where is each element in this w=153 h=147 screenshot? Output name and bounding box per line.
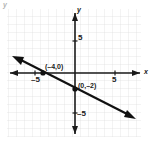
- point-marker-x-intercept: [40, 70, 45, 75]
- coordinate-plane-figure: –5 5 5 –5 x y y (–4,0) (0,–2): [0, 0, 153, 147]
- graph-canvas: [0, 0, 153, 147]
- y-axis-name-label: y: [77, 6, 81, 13]
- corner-y-name-label: y: [3, 1, 7, 8]
- x-axis-tick-label-pos5: 5: [112, 76, 116, 84]
- point-marker-y-intercept: [72, 86, 77, 91]
- y-axis-tick-label-neg5: –5: [77, 110, 86, 118]
- x-axis-tick-label-neg5: –5: [31, 76, 40, 84]
- y-axis-tick-label-pos5: 5: [78, 34, 82, 42]
- point-label-x-intercept: (–4,0): [45, 63, 63, 70]
- point-label-y-intercept: (0,–2): [78, 82, 96, 89]
- x-axis-name-label: x: [144, 68, 148, 75]
